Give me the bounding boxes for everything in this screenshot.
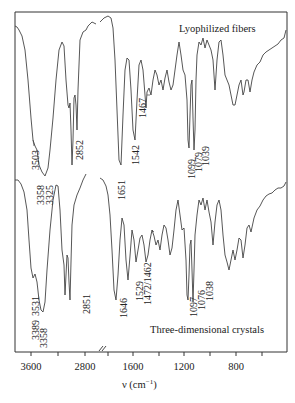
axis-break-icon bbox=[99, 346, 106, 351]
tick-label-800: 800 bbox=[228, 361, 244, 372]
peak-label-2851: 2851 bbox=[81, 294, 92, 314]
x-axis-ticks bbox=[31, 352, 262, 356]
peak-label-1472-1462: 1472/1462 bbox=[142, 262, 153, 305]
series-title-lyophilized-fibers: Lyophilized fibers bbox=[179, 23, 256, 34]
peak-label-3531: 3531 bbox=[30, 296, 41, 316]
tick-label-3600: 3600 bbox=[21, 361, 42, 372]
bottom-peak-labels: 3531 3389 3358 2851 1646 1529 1472/1462 … bbox=[30, 262, 215, 348]
x-axis-label: ν (cm−1) bbox=[122, 378, 157, 391]
peak-label-1039: 1039 bbox=[200, 146, 211, 166]
tick-label-1600: 1600 bbox=[123, 361, 144, 372]
peak-label-3325: 3325 bbox=[44, 185, 55, 205]
tick-label-1200: 1200 bbox=[174, 361, 195, 372]
ir-spectrum-chart: 3600 2800 1600 1200 800 ν (cm−1) Lyophil… bbox=[0, 0, 295, 403]
peak-label-1542: 1542 bbox=[130, 145, 141, 165]
peak-label-1646: 1646 bbox=[118, 298, 129, 318]
peak-label-1038: 1038 bbox=[204, 281, 215, 301]
peak-label-1467: 1467 bbox=[137, 98, 148, 118]
peak-label-1651: 1651 bbox=[116, 180, 127, 200]
peak-label-2852: 2852 bbox=[74, 140, 85, 160]
series-title-three-dimensional-crystals: Three-dimensional crystals bbox=[150, 324, 264, 335]
peak-label-3503: 3503 bbox=[30, 150, 41, 170]
peak-label-3358-crystal: 3358 bbox=[38, 328, 49, 348]
tick-label-2800: 2800 bbox=[75, 361, 96, 372]
top-peak-labels: 3503 3358 3325 2852 1651 1542 1467 1099 … bbox=[30, 98, 211, 205]
spectrum-lyophilized-fibers bbox=[15, 16, 286, 176]
